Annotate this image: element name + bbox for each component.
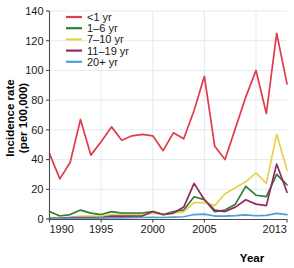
x-tick-label: 2005: [192, 223, 216, 235]
y-tick-label: 140: [25, 5, 43, 17]
legend-label: <1 yr: [87, 11, 112, 23]
x-tick-label: 1995: [89, 223, 113, 235]
incidence-rate-line-chart: 020406080100120140 19901995200020052013 …: [0, 0, 294, 268]
y-tick-label: 0: [37, 213, 43, 225]
legend-label: 20+ yr: [87, 56, 118, 68]
y-tick-label: 60: [31, 124, 43, 136]
y-axis-title-line1: Incidence rate: [4, 79, 16, 156]
y-axis-title-line2: (per 100,000): [17, 83, 29, 153]
y-tick-label: 80: [31, 94, 43, 106]
x-tick-label: 1990: [50, 223, 74, 235]
y-tick-label: 100: [25, 64, 43, 76]
x-axis-title: Year: [240, 252, 265, 264]
legend-label: 7–10 yr: [87, 33, 124, 45]
y-axis-title: Incidence rate (per 100,000): [4, 79, 29, 156]
x-tick-label: 2013: [263, 223, 287, 235]
chart-figure: 020406080100120140 19901995200020052013 …: [0, 0, 294, 268]
y-tick-label: 20: [31, 183, 43, 195]
y-tick-label: 40: [31, 153, 43, 165]
x-tick-label: 2000: [141, 223, 165, 235]
legend-label: 1–6 yr: [87, 22, 118, 34]
y-tick-label: 120: [25, 35, 43, 47]
legend-label: 11–19 yr: [87, 45, 129, 57]
